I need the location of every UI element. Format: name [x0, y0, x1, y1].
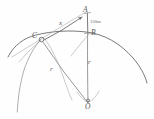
radius-label-left: r [50, 66, 53, 73]
geometry-diagram: A B C O x r r 150m [0, 0, 154, 119]
dimension-label-AB: 150m [90, 19, 101, 24]
main-circle-arc [8, 31, 147, 83]
arc-C-to-O-inner [44, 38, 72, 100]
construction-stroke-from-B [71, 34, 89, 56]
point-label-O: O [85, 103, 90, 111]
secondary-left-arc [17, 39, 41, 112]
point-label-C: C [32, 32, 37, 40]
point-label-A: A [83, 6, 88, 14]
construction-stroke-lower-left [19, 40, 41, 62]
arrow-segment-x [44, 17, 82, 40]
point-label-B: B [91, 29, 96, 37]
diagram-canvas [0, 0, 154, 119]
segment-label-x: x [59, 20, 62, 27]
radius-label-right: r [88, 59, 91, 66]
